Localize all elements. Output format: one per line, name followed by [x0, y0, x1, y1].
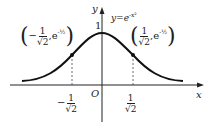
- right-inflection-point: [131, 53, 135, 57]
- left-point-den: √2: [37, 37, 48, 47]
- x-axis-arrow-icon: [197, 83, 204, 88]
- gaussian-diagram: y x O 1 y=e-x² (−1√2,e-½) (1√2,e-½) −1√2…: [0, 0, 211, 131]
- left-tick-sign: −: [57, 97, 65, 108]
- peak-label: 1: [95, 21, 101, 31]
- left-point-num: 1: [39, 26, 47, 37]
- y-axis-arrow-icon: [100, 7, 105, 14]
- right-point-label: (1√2,e-½): [130, 25, 176, 47]
- right-tick-den: √2: [125, 104, 136, 114]
- right-point-num: 1: [140, 26, 148, 37]
- curve-equation: y=e: [111, 13, 129, 23]
- left-tick-den: √2: [65, 104, 76, 114]
- left-point-label: (−1√2,e-½): [20, 25, 74, 47]
- right-tick-num: 1: [127, 93, 135, 104]
- origin-label: O: [91, 89, 99, 99]
- right-tick-label: 1√2: [125, 93, 136, 114]
- curve-exponent: -x²: [129, 11, 137, 18]
- y-axis-label: y: [92, 4, 98, 14]
- left-inflection-point: [70, 53, 74, 57]
- x-axis-label: x: [196, 90, 202, 100]
- curve-label: y=e-x²: [111, 12, 137, 23]
- right-point-power: -½: [159, 28, 167, 35]
- left-tick-num: 1: [67, 93, 75, 104]
- right-point-den: √2: [139, 37, 150, 47]
- plot-svg: [0, 0, 211, 131]
- left-point-sign: −: [29, 30, 37, 41]
- left-tick-label: −1√2: [57, 93, 77, 114]
